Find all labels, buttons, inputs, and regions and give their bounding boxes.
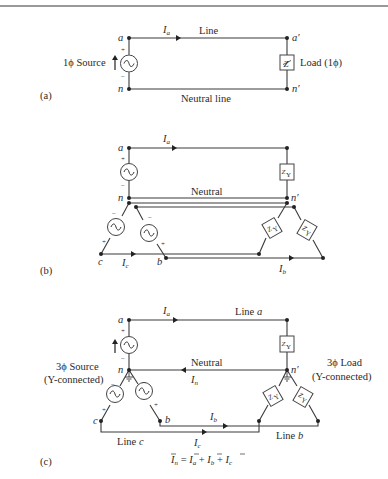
svg-text:+: + <box>102 406 106 414</box>
svg-text:Ia: Ia <box>162 133 171 146</box>
current-b-arrow-icon <box>289 255 294 261</box>
label-node-b: b <box>157 256 162 267</box>
current-label: Ia <box>162 24 171 37</box>
line-b-label: Line b <box>276 430 303 441</box>
current-c-arrow-icon <box>202 429 207 435</box>
label-node-n: n <box>118 364 123 375</box>
label-node-a-prime: a′ <box>292 32 300 43</box>
ac-source-c-icon <box>107 386 124 403</box>
node-n <box>127 87 131 91</box>
label-node-n-prime: n′ <box>291 192 299 203</box>
svg-text:In = Ia + Ib + Ic: In = Ia + Ib + Ic <box>170 454 233 467</box>
svg-text:−: − <box>112 210 116 218</box>
svg-text:+: + <box>121 327 125 335</box>
line-a-label: Line a <box>235 306 262 317</box>
neutral-label: Neutral <box>191 357 223 368</box>
label-node-n: n <box>118 83 123 94</box>
svg-text:Ib: Ib <box>278 263 287 276</box>
ac-source-a-icon <box>121 164 138 181</box>
ac-source-c-icon <box>108 219 125 236</box>
ac-source-icon <box>121 55 138 72</box>
current-arrow-icon <box>176 35 181 41</box>
node-a <box>127 36 131 40</box>
svg-text:−: − <box>111 381 115 389</box>
panel-b: Z Y ZY ZY a n n′ c b <box>40 133 325 277</box>
label-node-b: b <box>165 414 170 425</box>
load-label: Load (1ϕ) <box>300 57 342 69</box>
label-node-n-prime: n′ <box>291 364 299 375</box>
svg-text:Ib: Ib <box>209 411 218 424</box>
current-c-arrow-icon <box>131 251 136 257</box>
svg-text:−: − <box>121 73 125 81</box>
ac-source-b-icon <box>141 225 158 242</box>
label-node-a: a <box>118 32 123 43</box>
current-b-arrow-icon <box>223 423 228 429</box>
ac-source-a-icon <box>121 337 138 354</box>
current-n-arrow-icon <box>181 367 186 373</box>
svg-text:Ic: Ic <box>193 437 202 450</box>
svg-text:+: + <box>121 46 125 54</box>
kcl-equation: In = Ia + Ib + Ic <box>170 454 245 467</box>
neutral-line-label: Neutral line <box>181 93 231 104</box>
source-label: 1ϕ Source <box>63 57 106 68</box>
current-a-arrow-icon <box>173 317 178 323</box>
panel-c: Z Y ZY ZY a n n′ <box>40 305 372 468</box>
svg-text:+: + <box>102 238 106 246</box>
line-label: Line <box>199 25 219 36</box>
source-sublabel: (Y-connected) <box>44 374 104 386</box>
current-a-arrow-icon <box>172 145 177 151</box>
load-label: 3ϕ Load <box>327 357 363 368</box>
svg-text:Ia: Ia <box>162 305 171 318</box>
svg-text:Z: Z <box>282 340 286 348</box>
neutral-label: Neutral <box>191 186 223 197</box>
svg-text:Ic: Ic <box>121 257 130 270</box>
node-n-prime <box>285 87 289 91</box>
panel-tag-c: (c) <box>40 456 52 468</box>
label-node-a: a <box>118 314 123 325</box>
svg-text:−: − <box>121 355 125 363</box>
label-node-c: c <box>98 256 103 267</box>
svg-text:−: − <box>148 214 152 222</box>
panel-tag-a: (a) <box>40 90 52 102</box>
node-a-prime <box>285 36 289 40</box>
svg-text:+: + <box>121 155 125 163</box>
svg-text:Y: Y <box>286 343 291 351</box>
line-c-label: Line c <box>117 436 144 447</box>
svg-text:−: − <box>121 182 125 190</box>
three-phase-circuit-figure: Z a n a′ n′ + − Ia Line Neutral line 1ϕ … <box>0 0 388 479</box>
label-node-a: a <box>118 142 123 153</box>
panel-tag-b: (b) <box>40 265 53 277</box>
svg-text:In: In <box>190 374 199 387</box>
svg-text:Y: Y <box>286 171 291 179</box>
svg-text:Z: Z <box>282 168 286 176</box>
voltage-arrow-icon <box>112 339 118 344</box>
svg-text:+: + <box>161 240 165 248</box>
load-sublabel: (Y-connected) <box>312 371 372 383</box>
label-node-c: c <box>93 415 98 426</box>
svg-text:+: + <box>154 401 158 409</box>
source-label: 3ϕ Source <box>56 361 99 372</box>
label-node-n: n <box>118 192 123 203</box>
panel-a: Z a n a′ n′ + − Ia Line Neutral line 1ϕ … <box>40 24 342 104</box>
label-node-n-prime: n′ <box>292 83 300 94</box>
voltage-arrow-icon <box>112 55 118 60</box>
svg-text:−: − <box>142 379 146 387</box>
line-b-wire <box>160 421 318 426</box>
